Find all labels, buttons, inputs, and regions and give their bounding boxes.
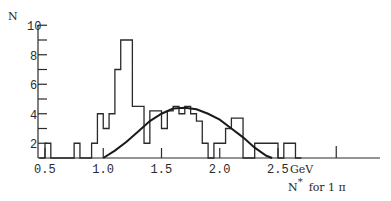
histogram-steps	[39, 40, 301, 158]
fit-curve	[103, 108, 272, 158]
y-tick-label: 2	[30, 138, 37, 152]
x-unit-label: GeV	[290, 163, 314, 176]
x-caption: N*for 1 π	[288, 176, 346, 194]
y-axis-label: N	[8, 10, 18, 23]
x-tick-label: 0.5	[34, 163, 56, 177]
x-tick-label: 1.5	[151, 163, 173, 177]
histogram-chart: 0.51.01.52.02.5246810 N GeV N*for 1 π	[0, 0, 391, 201]
x-tick-label: 1.0	[92, 163, 114, 177]
tick-labels: 0.51.01.52.02.5246810	[27, 20, 289, 177]
x-tick-label: 2.5	[267, 163, 289, 177]
y-tick-label: 4	[30, 109, 37, 123]
x-tick-label: 2.0	[209, 163, 231, 177]
y-tick-label: 10	[27, 20, 41, 34]
y-tick-label: 6	[30, 79, 37, 93]
y-tick-label: 8	[30, 50, 37, 64]
axes	[38, 25, 380, 158]
